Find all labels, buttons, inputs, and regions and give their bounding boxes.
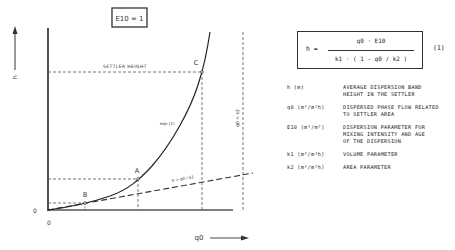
- legend-description: DISPERSION PARAMETER FOR MIXING INTENSIT…: [343, 124, 455, 145]
- equation-number: (1): [433, 44, 445, 52]
- curve-label: eqn (1): [160, 121, 175, 126]
- y-axis-label: h: [11, 75, 18, 79]
- legend-symbol: k1 (m³/m³h): [287, 151, 343, 158]
- legend-symbol: k2 (m³/m²h): [287, 164, 343, 171]
- origin-y-label: 0: [33, 207, 37, 214]
- legend-row-h: h (m) AVERAGE DISPERSION BAND HEIGHT IN …: [287, 84, 455, 98]
- settler-height-label: SETTLER HEIGHT: [103, 64, 147, 69]
- legend-symbol: E10 (m³/m²): [287, 124, 343, 145]
- parameter-box-label: E10 = 1: [115, 15, 143, 23]
- fraction-bar: [328, 50, 414, 51]
- legend-description: AREA PARAMETER: [343, 164, 455, 171]
- legend-row-q0: q0 (m³/m²h) DISPERSED PHASE FLOW RELATED…: [287, 104, 455, 118]
- point-a-label: A: [135, 167, 140, 175]
- point-c-marker: [201, 71, 204, 74]
- legend-description: DISPERSED PHASE FLOW RELATED TO SETTLER …: [343, 104, 455, 118]
- y-axis-arrow-icon: [13, 26, 18, 70]
- legend-description: VOLUME PARAMETER: [343, 151, 455, 158]
- equation-curve: [48, 32, 210, 210]
- linear-line-label: h = q0 / k1: [171, 174, 194, 183]
- parameter-box: E10 = 1: [112, 8, 147, 27]
- dispersion-band-diagram: E10 = 1 h 0 0 SETTLER HEIGHT q0 = k2 h =…: [0, 0, 290, 250]
- formula-box: h = q0 · E10 k1 · ( 1 - q0 / k2 ): [297, 31, 423, 69]
- legend-symbol: q0 (m³/m²h): [287, 104, 343, 118]
- asymptote-label: q0 = k2: [235, 109, 240, 127]
- legend-row-e10: E10 (m³/m²) DISPERSION PARAMETER FOR MIX…: [287, 124, 455, 145]
- symbol-legend: h (m) AVERAGE DISPERSION BAND HEIGHT IN …: [287, 84, 455, 177]
- legend-row-k2: k2 (m³/m²h) AREA PARAMETER: [287, 164, 455, 171]
- point-c-label: C: [194, 59, 199, 67]
- legend-symbol: h (m): [287, 84, 343, 98]
- legend-description: AVERAGE DISPERSION BAND HEIGHT IN THE SE…: [343, 84, 455, 98]
- formula-lhs: h =: [306, 45, 318, 53]
- origin-x-label: 0: [47, 219, 51, 226]
- formula-numerator: q0 · E10: [328, 37, 414, 44]
- x-axis-arrow-icon: [210, 236, 249, 241]
- legend-row-k1: k1 (m³/m³h) VOLUME PARAMETER: [287, 151, 455, 158]
- point-b-marker: [84, 202, 87, 205]
- formula-denominator: k1 · ( 1 - q0 / k2 ): [328, 55, 414, 62]
- point-b-label: B: [83, 191, 87, 199]
- point-a-marker: [137, 178, 140, 181]
- x-axis-label: q0: [195, 234, 204, 242]
